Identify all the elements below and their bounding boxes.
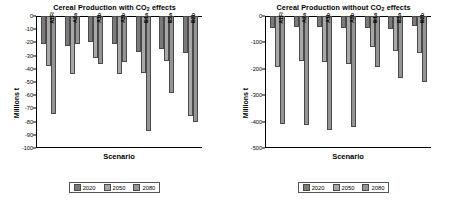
bar-group: B2a [155,16,179,147]
bar-group: A1FI [266,16,290,147]
bar-group: B1a [360,16,384,147]
plot-wrap-without-co2: A1FIA2aA1bA2bB1aB2aB2b [265,16,431,148]
bar-B1a-2080[interactable] [375,16,380,67]
chart-title-subscript: 2 [382,6,385,12]
bar-B2a-2080[interactable] [169,16,174,93]
chart-title-prefix: Cereal Production with CO [53,3,147,12]
chart-panel-with-co2: Cereal Production with CO2 effects Milli… [0,0,229,205]
bar-B2a-2080[interactable] [398,16,403,78]
legend-label: 2020 [312,185,325,191]
y-tick-label: -500 [251,145,262,151]
bar-A2a-2080[interactable] [304,16,309,125]
y-tick-label: -20 [25,39,33,45]
plot-area-without-co2: A1FIA2aA1bA2bB1aB2aB2b [265,16,431,148]
bar-A2a-2080[interactable] [75,16,80,44]
y-tick-label: -60 [25,92,33,98]
y-tick-label: -30 [25,53,33,59]
y-tick-label: -400 [251,119,262,125]
legend-swatch-icon [303,184,310,191]
bar-group: A2b [337,16,361,147]
legend-box: 202020502080 [298,182,390,193]
bar-A2b-2080[interactable] [351,16,356,127]
bar-A1b-2080[interactable] [327,16,332,130]
bar-A2b-2080[interactable] [122,16,127,62]
chart-title-with-co2: Cereal Production with CO2 effects [0,3,229,12]
bar-B1a-2080[interactable] [146,16,151,131]
chart-panel-without-co2: Cereal Production without CO2 effects Mi… [229,0,458,205]
legend-box: 202020502080 [69,182,161,193]
legend-label: 2050 [113,185,126,191]
legend-swatch-icon [104,184,111,191]
legend-item-2020[interactable]: 2020 [303,184,325,191]
legend-label: 2020 [83,185,96,191]
y-tick-label: -100 [251,39,262,45]
legend-swatch-icon [133,184,140,191]
legend-without-co2: 202020502080 [229,182,458,193]
bar-group: A2b [108,16,132,147]
bar-groups-without-co2: A1FIA2aA1bA2bB1aB2aB2b [266,16,431,147]
charts-page: Cereal Production with CO2 effects Milli… [0,0,458,205]
y-tick-label: -200 [251,66,262,72]
bar-group: B1a [131,16,155,147]
bar-A1FI-2080[interactable] [280,16,285,124]
bar-group: A1FI [37,16,61,147]
bar-group: B2b [178,16,202,147]
legend-item-2080[interactable]: 2080 [362,184,384,191]
legend-item-2080[interactable]: 2080 [133,184,155,191]
plot-wrap-with-co2: A1FIA2aA1bA2bB1aB2aB2b [36,16,202,148]
y-tick-label: -70 [25,105,33,111]
bar-A1FI-2080[interactable] [51,16,56,114]
bar-group: A2a [290,16,314,147]
legend-item-2050[interactable]: 2050 [104,184,126,191]
legend-label: 2050 [342,185,355,191]
y-tick-label: -90 [25,132,33,138]
y-tick-label: -40 [25,66,33,72]
bar-group: B2a [384,16,408,147]
legend-label: 2080 [371,185,384,191]
bar-group: A2a [61,16,85,147]
legend-swatch-icon [333,184,340,191]
chart-title-suffix: effects [150,3,176,12]
y-axis-ticks-with-co2: 0-10-20-30-40-50-60-70-80-90-100 [0,16,36,148]
y-axis-ticks-without-co2: 0-100-200-300-400-500 [229,16,265,148]
x-axis-label-with-co2: Scenario [36,152,202,161]
bar-groups-with-co2: A1FIA2aA1bA2bB1aB2aB2b [37,16,202,147]
legend-item-2050[interactable]: 2050 [333,184,355,191]
legend-swatch-icon [74,184,81,191]
legend-label: 2080 [142,185,155,191]
bar-A1b-2080[interactable] [98,16,103,64]
y-tick-label: -50 [25,79,33,85]
bar-group: B2b [407,16,431,147]
chart-title-without-co2: Cereal Production without CO2 effects [229,3,458,12]
chart-title-suffix: effects [385,3,411,12]
bar-group: A1b [313,16,337,147]
y-tick-label: -300 [251,92,262,98]
bar-group: A1b [84,16,108,147]
bar-B2b-2080[interactable] [422,16,427,82]
chart-title-prefix: Cereal Production without CO [277,3,382,12]
chart-title-subscript: 2 [147,6,150,12]
legend-with-co2: 202020502080 [0,182,229,193]
x-axis-label-without-co2: Scenario [265,152,431,161]
y-tick-label: -10 [25,26,33,32]
bar-B2b-2080[interactable] [193,16,198,122]
y-tick-label: -100 [22,145,33,151]
y-tick-label: -80 [25,119,33,125]
plot-area-with-co2: A1FIA2aA1bA2bB1aB2aB2b [36,16,202,148]
legend-item-2020[interactable]: 2020 [74,184,96,191]
legend-swatch-icon [362,184,369,191]
